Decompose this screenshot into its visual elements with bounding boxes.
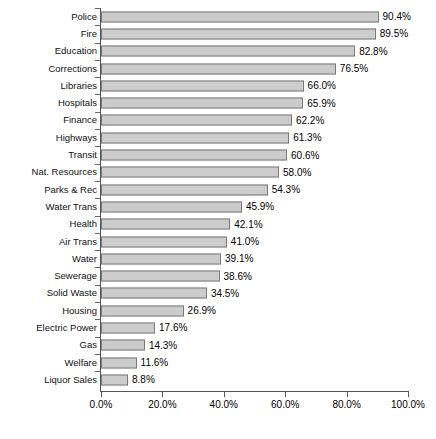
category-label: Nat. Resources (32, 167, 97, 177)
bar-row: Parks & Rec54.3% (0, 181, 436, 198)
bar-value-label: 62.2% (292, 115, 324, 126)
bar-value-label: 89.5% (376, 28, 408, 39)
x-axis-tick-label: 80.0% (332, 399, 360, 411)
bar-track: 39.1% (101, 253, 408, 264)
bar (101, 132, 289, 143)
x-axis-tick (224, 392, 225, 397)
bar-track: 89.5% (101, 28, 408, 39)
bar-track: 42.1% (101, 219, 408, 230)
bar-track: 60.6% (101, 150, 408, 161)
bar-track: 8.8% (101, 374, 408, 385)
bar-row: Sewerage38.6% (0, 267, 436, 284)
bar-value-label: 45.9% (242, 201, 274, 212)
bar (101, 150, 287, 161)
bar-value-label: 54.3% (268, 184, 300, 195)
x-axis-line (100, 391, 409, 392)
category-label: Finance (63, 115, 97, 125)
bar-track: 38.6% (101, 271, 408, 282)
bar-value-label: 17.6% (155, 322, 187, 333)
bar-row: Highways61.3% (0, 129, 436, 146)
bar-row: Health42.1% (0, 216, 436, 233)
bar (101, 201, 242, 212)
bar-row: Libraries66.0% (0, 77, 436, 94)
bar-value-label: 11.6% (137, 357, 169, 368)
bar-row: Corrections76.5% (0, 60, 436, 77)
bar-track: 54.3% (101, 184, 408, 195)
bar (101, 288, 207, 299)
category-label: Parks & Rec (44, 185, 97, 195)
bar-value-label: 76.5% (336, 63, 368, 74)
x-axis-tick (101, 392, 102, 397)
category-label: Water Trans (46, 202, 97, 212)
category-label: Education (55, 46, 97, 56)
x-axis-tick-label: 0.0% (90, 399, 113, 411)
bar-value-label: 34.5% (207, 288, 239, 299)
category-label: Electric Power (36, 323, 97, 333)
bar-value-label: 90.4% (379, 11, 411, 22)
bar-value-label: 61.3% (289, 132, 321, 143)
bar-row: Finance62.2% (0, 112, 436, 129)
bar (101, 374, 128, 385)
bar-value-label: 66.0% (304, 80, 336, 91)
category-label: Libraries (61, 81, 97, 91)
bar-value-label: 42.1% (230, 219, 262, 230)
x-axis-tick-label: 60.0% (271, 399, 299, 411)
category-label: Corrections (48, 64, 97, 74)
bar (101, 167, 279, 178)
bar-row: Nat. Resources58.0% (0, 164, 436, 181)
bar-row: Electric Power17.6% (0, 319, 436, 336)
bar (101, 322, 155, 333)
bar (101, 357, 137, 368)
bar-track: 14.3% (101, 340, 408, 351)
x-axis-tick (408, 392, 409, 397)
bar-track: 26.9% (101, 305, 408, 316)
bar-track: 58.0% (101, 167, 408, 178)
bar (101, 11, 379, 22)
bar (101, 80, 304, 91)
bar-row: Water Trans45.9% (0, 198, 436, 215)
bar (101, 236, 227, 247)
category-label: Welfare (64, 358, 97, 368)
category-label: Hospitals (58, 98, 97, 108)
bar (101, 340, 145, 351)
category-label: Transit (68, 150, 97, 160)
bar-row: Housing26.9% (0, 302, 436, 319)
bar-track: 82.8% (101, 46, 408, 57)
bar-row: Education82.8% (0, 43, 436, 60)
bar-row: Transit60.6% (0, 146, 436, 163)
bar (101, 46, 355, 57)
bar-track: 66.0% (101, 80, 408, 91)
bar-value-label: 58.0% (279, 167, 311, 178)
bar-row: Fire89.5% (0, 25, 436, 42)
bar (101, 63, 336, 74)
category-label: Fire (81, 29, 97, 39)
bar-row: Welfare11.6% (0, 354, 436, 371)
bar-track: 62.2% (101, 115, 408, 126)
category-label: Police (71, 12, 97, 22)
category-label: Liquor Sales (44, 375, 97, 385)
bar (101, 28, 376, 39)
category-label: Water (72, 254, 97, 264)
x-axis-tick-label: 100.0% (391, 399, 425, 411)
bar-track: 34.5% (101, 288, 408, 299)
y-axis-line (100, 8, 101, 391)
bar-value-label: 8.8% (128, 374, 155, 385)
bar (101, 184, 268, 195)
x-axis-tick (347, 392, 348, 397)
bar (101, 305, 184, 316)
bar (101, 219, 230, 230)
bar-track: 41.0% (101, 236, 408, 247)
bar-value-label: 82.8% (355, 46, 387, 57)
x-axis-tick-label: 20.0% (148, 399, 176, 411)
x-axis-tick (285, 392, 286, 397)
x-axis-tick-label: 40.0% (210, 399, 238, 411)
bar-value-label: 41.0% (227, 236, 259, 247)
bar-row: Hospitals65.9% (0, 94, 436, 111)
bar-track: 76.5% (101, 63, 408, 74)
category-label: Gas (80, 340, 97, 350)
bar (101, 115, 292, 126)
bar-track: 61.3% (101, 132, 408, 143)
bar-track: 90.4% (101, 11, 408, 22)
bar-track: 17.6% (101, 322, 408, 333)
plot-area: Police90.4%Fire89.5%Education82.8%Correc… (0, 8, 436, 398)
